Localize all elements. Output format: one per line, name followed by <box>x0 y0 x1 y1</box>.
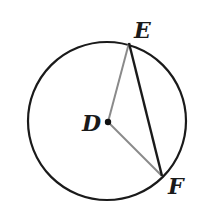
radius-de <box>108 43 129 122</box>
circle-diagram: E D F <box>0 0 199 218</box>
label-e: E <box>133 17 152 43</box>
chord-ef <box>129 43 162 176</box>
label-d: D <box>81 110 101 136</box>
radius-df <box>108 122 162 176</box>
center-point-d <box>105 119 111 125</box>
label-f: F <box>167 173 185 199</box>
